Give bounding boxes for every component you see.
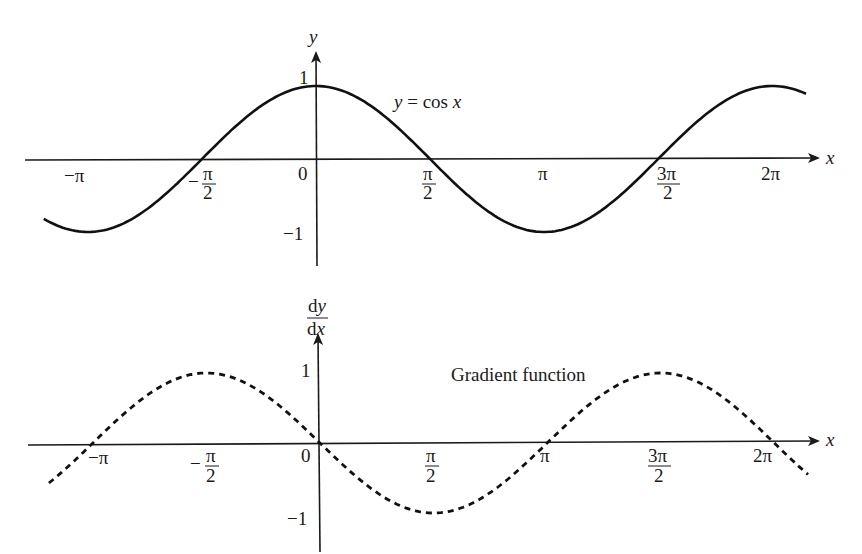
svg-text:π: π xyxy=(426,445,436,466)
gradient-graph: dy dx x Gradient function 1 −1 −π − π 2 … xyxy=(28,295,835,552)
svg-text:2: 2 xyxy=(203,182,213,203)
bottom-tick-pi: π xyxy=(540,445,550,466)
top-tick-three-half-pi: 3π 2 xyxy=(657,163,680,203)
top-tick-y-neg1: −1 xyxy=(283,223,303,244)
svg-text:2: 2 xyxy=(663,182,673,203)
top-tick-y-1: 1 xyxy=(299,67,309,88)
svg-text:3π: 3π xyxy=(648,445,668,466)
svg-text:2: 2 xyxy=(423,182,433,203)
top-tick-pi: π xyxy=(538,163,548,184)
svg-text:π: π xyxy=(423,163,433,184)
top-tick-half-pi: π 2 xyxy=(422,163,436,203)
bottom-tick-half-pi: π 2 xyxy=(425,445,439,486)
svg-text:2: 2 xyxy=(206,465,216,486)
bottom-tick-three-half-pi: 3π 2 xyxy=(648,445,671,486)
svg-text:π: π xyxy=(203,163,213,184)
top-tick-two-pi: 2π xyxy=(761,163,781,184)
svg-text:−: − xyxy=(190,453,201,474)
cos-graph: y x y = cos x 1 −1 −π − π 2 0 π 2 π 3π 2… xyxy=(25,26,835,266)
top-x-axis-label: x xyxy=(825,147,835,168)
bottom-tick-neg-pi: −π xyxy=(88,447,109,468)
bottom-x-axis-label: x xyxy=(825,429,835,450)
svg-text:dy: dy xyxy=(308,295,327,316)
bottom-x-axis xyxy=(28,441,818,445)
top-y-axis-label: y xyxy=(307,26,318,47)
bottom-tick-y-1: 1 xyxy=(301,360,311,381)
top-tick-zero: 0 xyxy=(298,163,308,184)
bottom-tick-two-pi: 2π xyxy=(753,445,773,466)
bottom-tick-y-neg1: −1 xyxy=(287,508,307,529)
svg-text:2: 2 xyxy=(654,465,664,486)
bottom-tick-zero: 0 xyxy=(301,445,311,466)
svg-text:3π: 3π xyxy=(657,163,677,184)
top-tick-neg-pi: −π xyxy=(64,165,85,186)
top-x-axis xyxy=(25,158,818,160)
svg-text:−: − xyxy=(188,171,199,192)
gradient-curve-label: Gradient function xyxy=(451,364,586,385)
bottom-y-axis-label: dy dx xyxy=(307,295,328,339)
svg-text:π: π xyxy=(206,445,216,466)
figure: y x y = cos x 1 −1 −π − π 2 0 π 2 π 3π 2… xyxy=(0,0,862,554)
svg-text:dx: dx xyxy=(307,318,326,339)
svg-text:2: 2 xyxy=(426,465,436,486)
cos-curve-label: y = cos x xyxy=(392,91,462,112)
bottom-tick-neg-half-pi: − π 2 xyxy=(190,445,219,486)
